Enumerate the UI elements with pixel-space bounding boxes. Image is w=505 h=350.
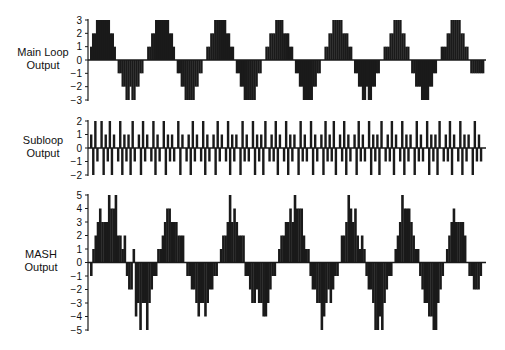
data-bar	[359, 249, 362, 263]
data-bar	[97, 222, 100, 263]
data-bar	[278, 249, 281, 263]
data-bar	[256, 135, 258, 149]
data-bar	[216, 121, 218, 148]
data-bar	[354, 209, 357, 263]
data-bar	[365, 263, 368, 277]
data-bar	[105, 135, 107, 149]
data-bar	[296, 209, 299, 263]
y-tick-label: 3	[76, 15, 82, 26]
data-bar	[417, 249, 420, 263]
data-bar	[472, 148, 474, 175]
data-bar	[185, 148, 187, 162]
data-bar	[426, 263, 429, 304]
data-bar	[299, 121, 301, 148]
data-bar	[146, 263, 149, 331]
data-bar	[106, 222, 109, 263]
data-bar	[459, 121, 461, 148]
data-bar	[300, 209, 303, 263]
data-bar	[252, 121, 254, 148]
data-bar	[222, 236, 225, 263]
data-bar	[437, 263, 440, 304]
data-bar	[229, 195, 232, 263]
mash-panel: 543210−1−2−3−4−5	[71, 190, 486, 336]
data-bar	[343, 236, 346, 263]
data-bar	[352, 222, 355, 263]
data-bar	[381, 263, 384, 331]
data-bar	[142, 121, 144, 148]
data-bar	[465, 148, 467, 162]
data-bar	[433, 263, 436, 331]
data-bar	[114, 47, 116, 60]
data-bar	[322, 148, 324, 175]
data-bar	[372, 135, 374, 149]
data-bar	[110, 209, 113, 263]
data-bar	[270, 135, 272, 149]
data-bar	[401, 195, 404, 263]
data-bar	[413, 148, 415, 175]
data-bar	[193, 263, 196, 290]
data-bar	[219, 148, 221, 162]
data-bar	[310, 121, 312, 148]
data-bar	[190, 148, 192, 175]
data-bar	[155, 263, 158, 277]
data-bar	[126, 263, 129, 277]
data-bar	[221, 135, 223, 149]
data-bar	[191, 263, 194, 290]
data-bar	[197, 263, 200, 317]
data-bar	[154, 148, 156, 175]
y-tick-label: −5	[71, 325, 83, 336]
data-bar	[251, 263, 254, 304]
data-bar	[225, 148, 227, 162]
data-bar	[405, 135, 407, 149]
data-bar	[166, 209, 169, 263]
y-tick-label: 1	[76, 41, 82, 52]
data-bar	[182, 236, 185, 263]
data-bar	[331, 148, 333, 162]
y-tick-label: 0	[76, 257, 82, 268]
data-bar	[380, 121, 382, 148]
data-bar	[474, 121, 476, 148]
data-bar	[312, 263, 315, 290]
data-bar	[211, 263, 214, 290]
data-bar	[269, 263, 272, 290]
data-bar	[167, 135, 169, 149]
data-bar	[256, 263, 259, 290]
data-bar	[320, 135, 322, 149]
data-bar	[200, 148, 202, 162]
data-bar	[287, 222, 290, 263]
data-bar	[378, 60, 380, 73]
data-bar	[195, 263, 198, 304]
data-bar	[482, 60, 484, 73]
data-bar	[397, 236, 400, 263]
data-bar	[450, 222, 453, 263]
data-bar	[156, 135, 158, 149]
data-bar	[214, 148, 216, 175]
data-bar	[386, 263, 389, 290]
data-bar	[119, 236, 122, 263]
data-bar	[152, 121, 154, 148]
data-bar	[361, 236, 364, 263]
data-bar	[121, 148, 123, 175]
data-bar	[285, 222, 288, 263]
data-bar	[347, 135, 349, 149]
data-bar	[186, 263, 189, 277]
data-bar	[283, 148, 285, 162]
data-bar	[277, 148, 279, 175]
data-bar	[305, 249, 308, 263]
data-bar	[181, 135, 183, 149]
data-bar	[274, 263, 277, 277]
data-bar	[302, 148, 304, 162]
data-bar	[341, 148, 343, 162]
data-bar	[428, 263, 431, 317]
data-bar	[467, 135, 469, 149]
data-bar	[260, 263, 263, 304]
data-bar	[144, 263, 147, 304]
data-bar	[96, 148, 98, 162]
data-bar	[177, 121, 179, 148]
data-bar	[393, 148, 395, 175]
data-bar	[200, 60, 202, 73]
data-bar	[213, 263, 216, 277]
data-bar	[477, 263, 480, 290]
data-bar	[478, 135, 480, 149]
data-bar	[171, 135, 173, 149]
